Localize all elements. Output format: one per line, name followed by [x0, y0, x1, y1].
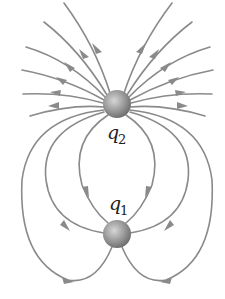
- charge-q2: q 2: [103, 90, 131, 147]
- charge-q1-sphere: [103, 220, 131, 248]
- charge-q2-sphere: [103, 90, 131, 118]
- charge-q2-subscript: 2: [118, 132, 126, 147]
- charge-q1-subscript: 1: [120, 203, 128, 218]
- field-diagram: q 2 q 1: [0, 0, 225, 299]
- charge-q1: q 1: [103, 192, 131, 248]
